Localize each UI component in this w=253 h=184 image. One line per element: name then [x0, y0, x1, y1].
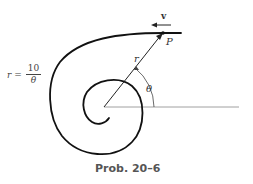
equation-denominator: θ [31, 75, 36, 86]
equation: r = 10 θ [7, 63, 41, 86]
velocity-label: v [161, 11, 166, 21]
figure-caption: Prob. 20–6 [95, 162, 160, 175]
equation-lhs: r = [7, 70, 22, 80]
point-label: P [166, 36, 173, 47]
equation-numerator: 10 [26, 63, 41, 75]
radius-label: r [134, 53, 139, 64]
spiral-diagram [0, 0, 253, 184]
angle-label: θ [146, 83, 152, 94]
velocity-arrowhead [151, 23, 157, 28]
equation-fraction: 10 θ [26, 63, 41, 86]
spiral-path [50, 33, 181, 154]
point-p-marker [161, 31, 165, 35]
